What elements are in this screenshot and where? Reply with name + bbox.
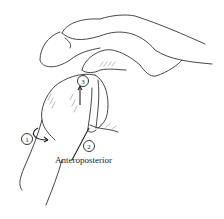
acromion-outline (82, 50, 182, 76)
label-1: 1 (22, 134, 33, 145)
svg-text:3: 3 (81, 78, 85, 86)
label-2: 2 (84, 141, 95, 152)
humerus-shaft (20, 120, 42, 190)
svg-text:2: 2 (87, 143, 91, 151)
svg-text:1: 1 (25, 136, 29, 144)
view-caption: Anteroposterior (55, 155, 112, 165)
shoulder-illustration: 1 2 3 (0, 0, 224, 219)
label-3: 3 (78, 76, 89, 87)
